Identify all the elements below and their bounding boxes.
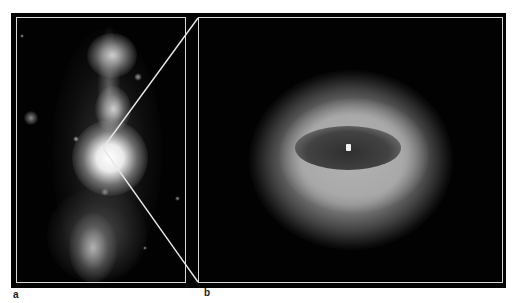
panel-label-b: b (204, 287, 210, 298)
panel-a-galaxy-image (16, 17, 186, 283)
star (175, 196, 180, 201)
panel-b-ring-image (198, 17, 503, 283)
central-bright-point (346, 144, 351, 151)
lower-knot (69, 213, 117, 283)
panel-label-a: a (13, 289, 19, 300)
star (20, 34, 24, 38)
star (143, 246, 147, 250)
star (73, 136, 79, 142)
star (134, 73, 142, 81)
star (101, 188, 109, 196)
bright-core (72, 120, 148, 196)
star (23, 111, 39, 125)
